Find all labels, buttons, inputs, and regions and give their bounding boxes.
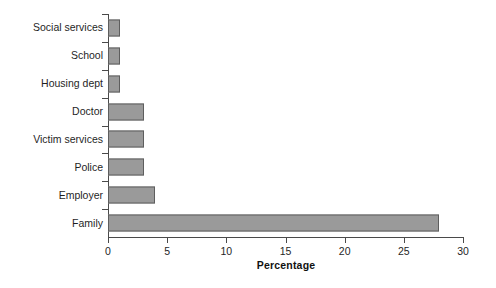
bar-chart: Social servicesSchoolHousing deptDoctorV… — [0, 0, 496, 288]
y-axis-label: Victim services — [3, 134, 103, 145]
x-axis-tick-label: 25 — [398, 245, 410, 257]
y-axis-label: Police — [3, 162, 103, 173]
bar — [108, 47, 120, 64]
bar — [108, 159, 144, 176]
x-axis-tick — [226, 238, 227, 243]
x-axis-tick — [108, 238, 109, 243]
y-axis-label-row: School — [0, 42, 103, 70]
x-axis-tick-label: 30 — [457, 245, 469, 257]
bar-row — [108, 153, 463, 181]
bar-row — [108, 42, 463, 70]
bar — [108, 187, 155, 204]
bar — [108, 215, 439, 232]
x-axis-tick — [286, 238, 287, 243]
x-axis-tick-label: 10 — [220, 245, 232, 257]
y-axis-label-row: Police — [0, 153, 103, 181]
y-axis-label: School — [3, 50, 103, 61]
x-axis-tick-label: 15 — [280, 245, 292, 257]
bar-row — [108, 70, 463, 98]
y-axis-label: Housing dept — [3, 78, 103, 89]
bar-row — [108, 181, 463, 209]
x-axis-tick — [463, 238, 464, 243]
y-axis-label: Employer — [3, 190, 103, 201]
x-axis-tick-label: 0 — [105, 245, 111, 257]
plot-area — [108, 14, 463, 237]
x-axis-tick — [167, 238, 168, 243]
y-axis-label-row: Employer — [0, 181, 103, 209]
bar-row — [108, 209, 463, 237]
y-axis-label-row: Social services — [0, 14, 103, 42]
bar-row — [108, 98, 463, 126]
x-axis-tick — [404, 238, 405, 243]
y-axis-label-row: Doctor — [0, 98, 103, 126]
bar-row — [108, 126, 463, 154]
y-axis-labels: Social servicesSchoolHousing deptDoctorV… — [0, 14, 103, 237]
y-axis-label-row: Family — [0, 209, 103, 237]
y-axis-label: Doctor — [3, 106, 103, 117]
x-axis-title: Percentage — [108, 259, 464, 271]
bar — [108, 75, 120, 92]
y-axis-label: Social services — [3, 22, 103, 33]
y-axis-label: Family — [3, 218, 103, 229]
x-axis-tick-label: 5 — [164, 245, 170, 257]
y-axis-label-row: Victim services — [0, 126, 103, 154]
bar-row — [108, 14, 463, 42]
bar — [108, 131, 144, 148]
y-axis-label-row: Housing dept — [0, 70, 103, 98]
bar — [108, 103, 144, 120]
x-axis-tick-label: 20 — [339, 245, 351, 257]
bar — [108, 19, 120, 36]
x-axis-tick — [345, 238, 346, 243]
